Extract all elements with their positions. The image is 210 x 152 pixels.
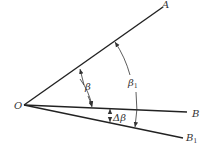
ray-ob bbox=[24, 105, 187, 112]
beta1-arc-top bbox=[115, 42, 130, 75]
label-a: A bbox=[161, 0, 169, 10]
label-o: O bbox=[14, 100, 22, 111]
ray-ob1 bbox=[24, 105, 183, 138]
beta-arrow-top bbox=[80, 69, 84, 85]
label-delta-beta: Δβ bbox=[112, 112, 126, 123]
label-b: B bbox=[191, 108, 199, 119]
angle-diagram: O A B B1 β β1 Δβ bbox=[0, 0, 210, 152]
label-b1: B1 bbox=[185, 132, 198, 145]
ray-oa bbox=[24, 7, 163, 105]
label-beta1: β1 bbox=[127, 77, 138, 90]
label-beta: β bbox=[84, 81, 91, 92]
